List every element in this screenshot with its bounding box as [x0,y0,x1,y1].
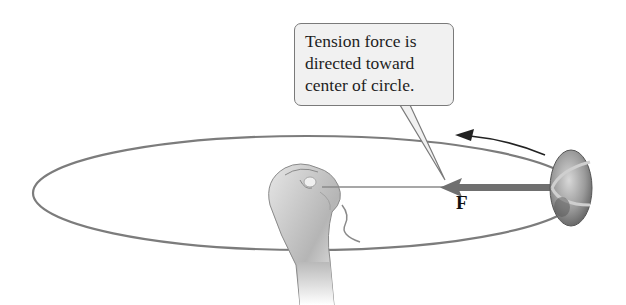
hand-icon [269,164,360,305]
callout-line-2: directed toward [305,52,453,74]
motion-direction-arrow-icon [455,129,545,155]
callout-box: Tension force is directed toward center … [294,23,454,106]
rock-icon [550,150,592,226]
callout-line-3: center of circle. [305,74,453,96]
diagram-canvas: Tension force is directed toward center … [0,0,626,305]
callout-line-1: Tension force is [305,30,453,52]
force-label: F [456,192,468,214]
